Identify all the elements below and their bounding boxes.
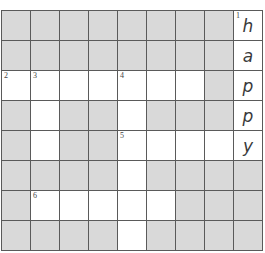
crossword-block-cell bbox=[89, 161, 118, 191]
crossword-answer-cell[interactable] bbox=[118, 161, 147, 191]
crossword-block-cell bbox=[147, 161, 176, 191]
crossword-block-cell bbox=[89, 11, 118, 41]
clue-number: 3 bbox=[33, 72, 37, 80]
crossword-answer-cell[interactable]: 4 bbox=[118, 71, 147, 101]
crossword-block-cell bbox=[2, 191, 31, 221]
crossword-block-cell bbox=[234, 191, 263, 221]
crossword-answer-cell[interactable]: 6 bbox=[31, 191, 60, 221]
crossword-block-cell bbox=[60, 221, 89, 251]
crossword-answer-cell[interactable] bbox=[147, 191, 176, 221]
crossword-answer-cell[interactable] bbox=[118, 101, 147, 131]
crossword-block-cell bbox=[89, 221, 118, 251]
crossword-block-cell bbox=[2, 101, 31, 131]
crossword-answer-cell[interactable] bbox=[31, 131, 60, 161]
crossword-block-cell bbox=[118, 11, 147, 41]
crossword-block-cell bbox=[147, 101, 176, 131]
clue-number: 4 bbox=[120, 72, 124, 80]
crossword-answer-cell[interactable]: 2 bbox=[2, 71, 31, 101]
crossword-block-cell bbox=[176, 191, 205, 221]
crossword-block-cell bbox=[147, 41, 176, 71]
crossword-answer-cell[interactable] bbox=[118, 221, 147, 251]
crossword-block-cell bbox=[234, 161, 263, 191]
clue-number: 2 bbox=[4, 72, 8, 80]
crossword-block-cell bbox=[31, 11, 60, 41]
crossword-block-cell bbox=[60, 11, 89, 41]
crossword-block-cell bbox=[205, 101, 234, 131]
cell-letter: y bbox=[234, 134, 262, 158]
crossword-block-cell bbox=[31, 41, 60, 71]
crossword-block-cell bbox=[2, 41, 31, 71]
crossword-block-cell bbox=[205, 11, 234, 41]
crossword-answer-cell[interactable]: p bbox=[234, 71, 263, 101]
crossword-block-cell bbox=[2, 161, 31, 191]
cell-letter: a bbox=[234, 44, 262, 68]
crossword-block-cell bbox=[60, 161, 89, 191]
crossword-answer-cell[interactable] bbox=[176, 131, 205, 161]
crossword-grid: 1ha234pp5y6 bbox=[1, 10, 263, 251]
crossword-block-cell bbox=[60, 41, 89, 71]
crossword-block-cell bbox=[31, 221, 60, 251]
crossword-block-cell bbox=[31, 161, 60, 191]
crossword-answer-cell[interactable]: 3 bbox=[31, 71, 60, 101]
crossword-block-cell bbox=[176, 11, 205, 41]
crossword-answer-cell[interactable] bbox=[31, 101, 60, 131]
crossword-block-cell bbox=[205, 41, 234, 71]
crossword-answer-cell[interactable] bbox=[89, 191, 118, 221]
crossword-answer-cell[interactable] bbox=[60, 71, 89, 101]
crossword-answer-cell[interactable]: p bbox=[234, 101, 263, 131]
clue-number: 6 bbox=[33, 192, 37, 200]
crossword-block-cell bbox=[60, 131, 89, 161]
crossword-answer-cell[interactable]: a bbox=[234, 41, 263, 71]
crossword-block-cell bbox=[147, 11, 176, 41]
crossword-answer-cell[interactable]: 1h bbox=[234, 11, 263, 41]
crossword-block-cell bbox=[176, 161, 205, 191]
crossword-answer-cell[interactable] bbox=[118, 191, 147, 221]
crossword-block-cell bbox=[89, 41, 118, 71]
crossword-answer-cell[interactable] bbox=[147, 71, 176, 101]
crossword-block-cell bbox=[234, 221, 263, 251]
crossword-answer-cell[interactable] bbox=[205, 131, 234, 161]
cell-letter: h bbox=[234, 14, 262, 38]
crossword-block-cell bbox=[147, 221, 176, 251]
crossword-answer-cell[interactable] bbox=[60, 191, 89, 221]
crossword-block-cell bbox=[118, 41, 147, 71]
crossword-block-cell bbox=[176, 101, 205, 131]
crossword-block-cell bbox=[205, 161, 234, 191]
crossword-answer-cell[interactable] bbox=[147, 131, 176, 161]
crossword-answer-cell[interactable]: 5 bbox=[118, 131, 147, 161]
crossword-block-cell bbox=[60, 101, 89, 131]
crossword-block-cell bbox=[2, 11, 31, 41]
crossword-block-cell bbox=[205, 191, 234, 221]
cell-letter: p bbox=[234, 104, 262, 128]
crossword-block-cell bbox=[2, 131, 31, 161]
crossword-answer-cell[interactable] bbox=[89, 71, 118, 101]
crossword-block-cell bbox=[176, 221, 205, 251]
cell-letter: p bbox=[234, 74, 262, 98]
crossword-block-cell bbox=[89, 101, 118, 131]
clue-number: 5 bbox=[120, 132, 124, 140]
crossword-block-cell bbox=[2, 221, 31, 251]
crossword-answer-cell[interactable] bbox=[176, 71, 205, 101]
crossword-answer-cell[interactable]: y bbox=[234, 131, 263, 161]
crossword-block-cell bbox=[176, 41, 205, 71]
crossword-block-cell bbox=[89, 131, 118, 161]
crossword-block-cell bbox=[205, 221, 234, 251]
crossword-block-cell bbox=[205, 71, 234, 101]
